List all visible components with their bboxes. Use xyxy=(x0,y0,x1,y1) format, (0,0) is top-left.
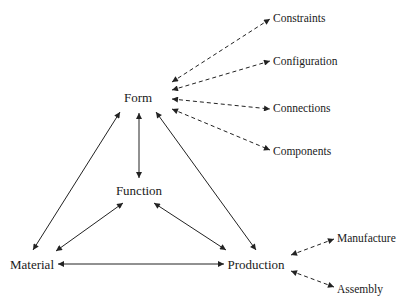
edge-form-components xyxy=(172,109,270,150)
node-constraints: Constraints xyxy=(273,12,326,24)
edge-form-configuration xyxy=(172,61,270,90)
node-assembly: Assembly xyxy=(337,283,383,296)
edge-function-material xyxy=(56,203,123,251)
edge-form-production xyxy=(156,112,256,250)
node-production: Production xyxy=(227,257,285,272)
edge-form-connections xyxy=(172,99,270,109)
edge-function-production xyxy=(154,203,226,250)
design-relationship-diagram: Form Function Material Production Constr… xyxy=(0,0,411,303)
node-material: Material xyxy=(10,257,54,272)
edge-form-constraints xyxy=(172,19,270,82)
edge-form-material xyxy=(33,112,120,250)
node-manufacture: Manufacture xyxy=(337,232,396,244)
edge-production-assembly xyxy=(291,271,334,287)
node-form: Form xyxy=(124,90,152,105)
node-function: Function xyxy=(116,183,163,198)
node-components: Components xyxy=(273,145,332,158)
node-connections: Connections xyxy=(273,102,331,114)
edge-production-manufacture xyxy=(291,239,334,255)
node-configuration: Configuration xyxy=(273,55,338,68)
